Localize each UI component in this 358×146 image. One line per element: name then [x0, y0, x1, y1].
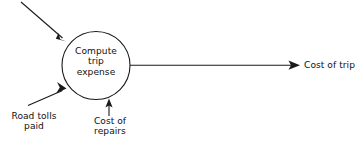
data-flow-diagram: Compute trip expense Road tolls paid Cos…	[0, 0, 358, 146]
flow-cost-of-trip[interactable]	[130, 61, 300, 70]
flow-cost-of-repairs[interactable]	[105, 99, 112, 117]
flow-line-road-tolls-paid	[28, 91, 63, 106]
flow-label-cost-of-repairs: Cost of repairs	[82, 116, 138, 137]
flow-line-unlabeled-input-top	[21, 2, 63, 38]
flow-unlabeled-input-top[interactable]	[21, 2, 67, 42]
flow-road-tolls-paid[interactable]	[28, 82, 67, 106]
flow-label-cost-of-trip: Cost of trip	[304, 60, 358, 70]
process-label: Compute trip expense	[62, 46, 130, 77]
flow-label-road-tolls-paid: Road tolls paid	[1, 111, 67, 132]
